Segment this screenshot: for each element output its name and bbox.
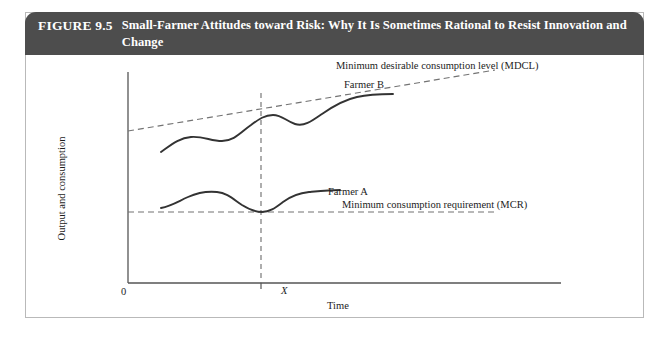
farmer-b-curve [161, 94, 393, 152]
mdcl-label: Minimum desirable consumption level (MDC… [336, 60, 538, 72]
x-axis-title: Time [327, 300, 349, 311]
x-axis-origin-label: 0 [121, 286, 126, 297]
figure-number: FIGURE 9.5 [38, 17, 122, 34]
mcr-label: Minimum consumption requirement (MCR) [342, 199, 527, 211]
farmer-b-label: Farmer B [344, 79, 384, 91]
figure-header-bar: FIGURE 9.5 Small-Farmer Attitudes toward… [25, 12, 644, 55]
x-axis-tick-label-x: X [281, 285, 287, 296]
figure-title: Small-Farmer Attitudes toward Risk: Why … [122, 17, 636, 50]
farmer-a-curve [161, 190, 340, 212]
farmer-a-label: Farmer A [328, 186, 368, 198]
figure-page: FIGURE 9.5 Small-Farmer Attitudes toward… [0, 0, 669, 340]
figure-header-inner: FIGURE 9.5 Small-Farmer Attitudes toward… [38, 17, 636, 50]
y-axis-title: Output and consumption [56, 119, 67, 259]
chart-plot-area: Minimum desirable consumption level (MDC… [25, 55, 644, 318]
